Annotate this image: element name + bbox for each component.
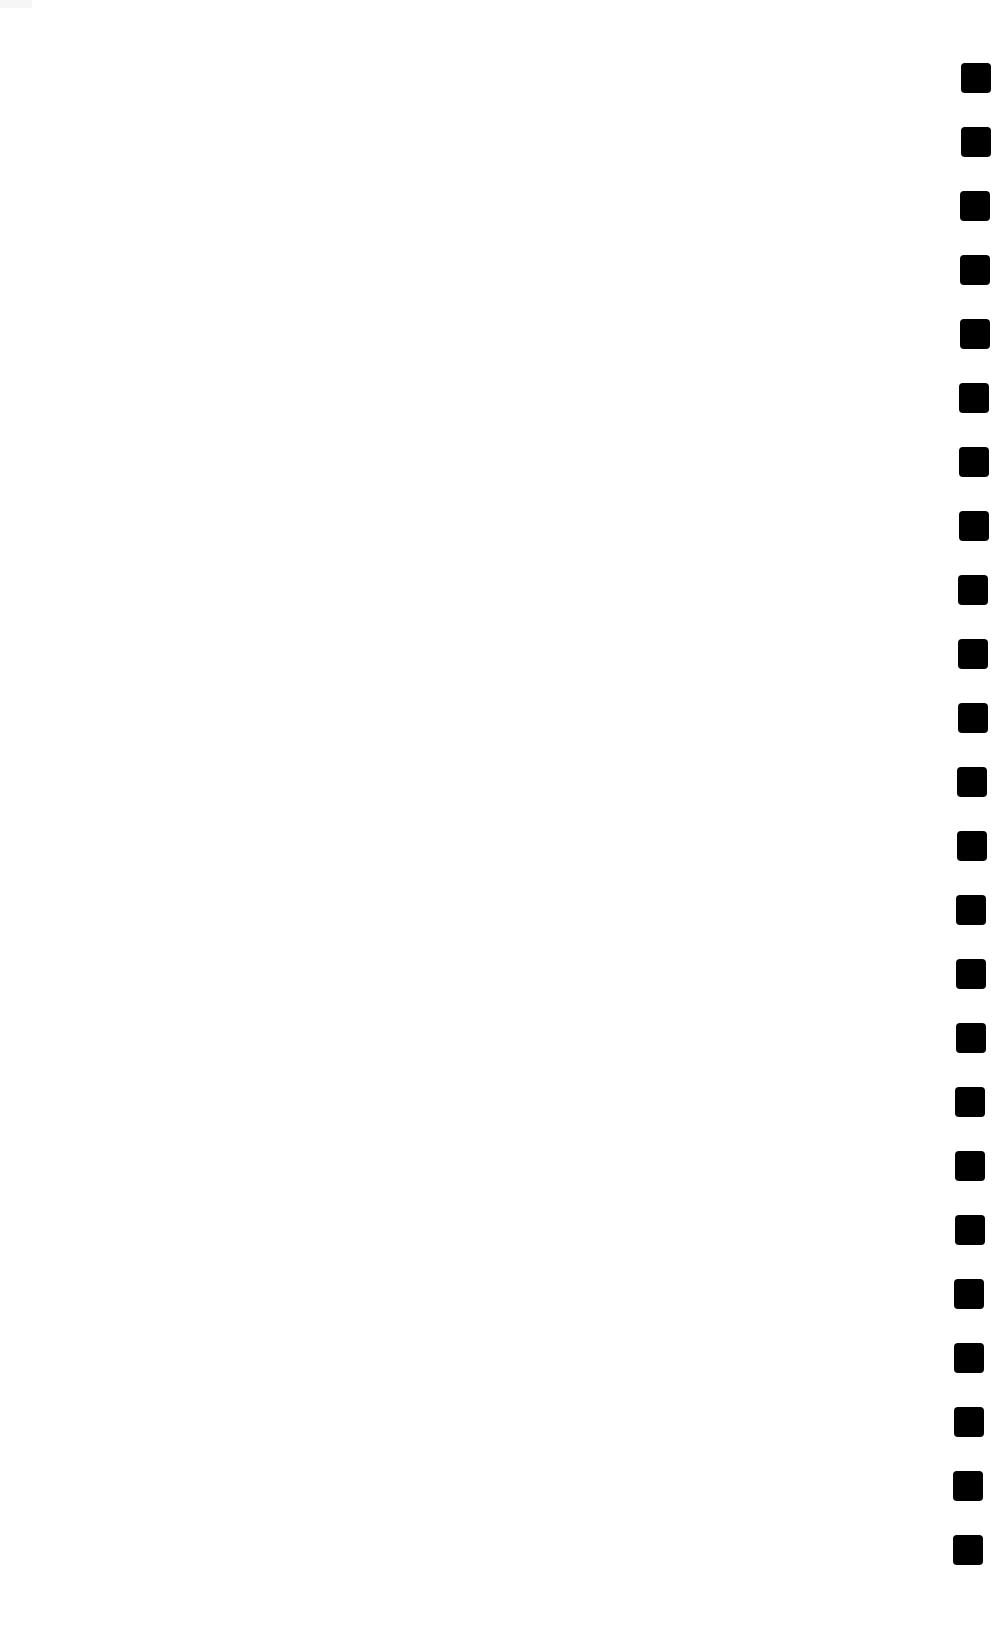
perforation-hole xyxy=(956,959,986,989)
perforation-hole xyxy=(960,319,990,349)
perforation-hole xyxy=(957,831,987,861)
perforation-hole xyxy=(958,575,988,605)
perforation-hole xyxy=(958,639,988,669)
perforation-hole xyxy=(960,255,990,285)
perforation-hole xyxy=(954,1407,984,1437)
corner-scan-artifact xyxy=(0,0,32,8)
perforation-hole xyxy=(959,383,989,413)
perforation-hole xyxy=(959,447,989,477)
perforation-hole xyxy=(954,1343,984,1373)
perforation-hole xyxy=(955,1215,985,1245)
perforation-hole xyxy=(957,767,987,797)
perforation-hole xyxy=(961,63,991,93)
perforation-hole xyxy=(956,1023,986,1053)
perforation-hole xyxy=(953,1471,983,1501)
perforation-hole xyxy=(958,703,988,733)
perforation-hole xyxy=(955,1087,985,1117)
perforation-hole xyxy=(955,1151,985,1181)
perforation-hole xyxy=(959,511,989,541)
perforation-hole xyxy=(960,191,990,221)
perforation-hole xyxy=(956,895,986,925)
perforation-strip xyxy=(940,0,1000,1629)
perforation-hole xyxy=(961,127,991,157)
perforation-hole xyxy=(953,1535,983,1565)
perforation-hole xyxy=(954,1279,984,1309)
